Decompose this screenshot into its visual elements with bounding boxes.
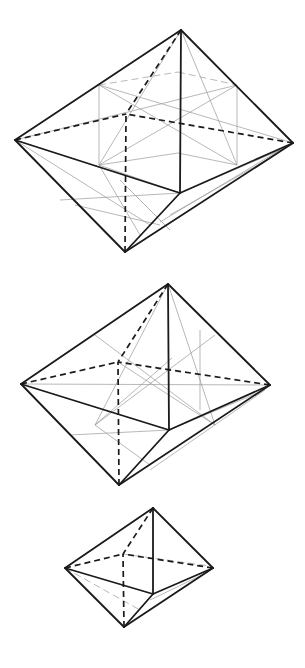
construction-line [99,165,140,235]
construction-line [99,72,178,85]
large-octahedron [15,30,293,252]
small-octahedron [65,508,213,627]
construction-line [60,193,180,200]
medium-octahedron [21,284,270,485]
construction-line [168,284,215,425]
visible-edge [124,568,213,627]
visible-edge [15,140,180,193]
construction-line [21,384,270,385]
construction-line [181,30,237,165]
visible-edge [153,568,213,594]
construction-line [70,430,169,435]
construction-line [123,554,210,566]
hidden-edge [118,362,119,485]
visible-edge [65,508,153,568]
construction-line [170,158,270,215]
construction-line [178,153,237,165]
visible-edge [119,385,270,485]
hidden-edge [118,284,168,362]
visible-edge [21,284,168,384]
visible-edge [180,30,181,193]
visible-edge [168,284,169,430]
construction-line [99,153,178,165]
hidden-edge [125,114,126,252]
octahedra-figure [0,0,305,668]
visible-edge [169,385,270,430]
construction-line [65,568,140,610]
visible-edge [180,143,293,193]
construction-line [15,140,150,225]
visible-edge [168,284,270,385]
hidden-edge [118,362,270,385]
construction-line [160,150,280,222]
hidden-edge [123,508,153,554]
visible-edge [153,508,213,568]
hidden-edge [21,362,118,384]
construction-line [95,284,168,425]
hidden-edge [123,554,124,627]
visible-edge [15,30,181,140]
